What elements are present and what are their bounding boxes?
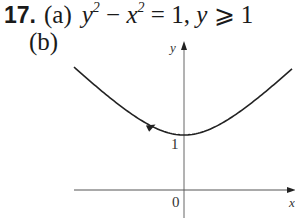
hyperbola-graph: y x 0 1 [0,0,295,220]
y-tick-label-1: 1 [171,136,179,152]
hyperbola-curve [74,67,292,135]
y-axis-arrow-icon [181,41,187,50]
origin-label: 0 [172,194,180,210]
y-axis-label: y [168,40,176,55]
x-axis-label: x [288,195,295,210]
x-axis-arrow-icon [287,187,295,193]
